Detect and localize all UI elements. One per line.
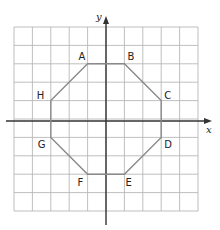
vertex-label-d: D [164, 139, 172, 150]
y-axis-label: y [95, 11, 102, 22]
vertex-label-e: E [125, 177, 131, 188]
vertex-label-g: G [38, 139, 46, 150]
vertex-label-b: B [127, 51, 134, 62]
vertex-label-h: H [37, 90, 45, 101]
vertex-label-a: A [79, 51, 86, 62]
x-axis-label: x [206, 124, 212, 135]
y-axis-arrow-icon [103, 16, 109, 24]
vertex-label-c: C [164, 90, 171, 101]
vertex-labels: ABCDEFGH [37, 51, 172, 188]
vertex-label-f: F [78, 177, 84, 188]
coordinate-plane: x y ABCDEFGH [0, 0, 220, 230]
